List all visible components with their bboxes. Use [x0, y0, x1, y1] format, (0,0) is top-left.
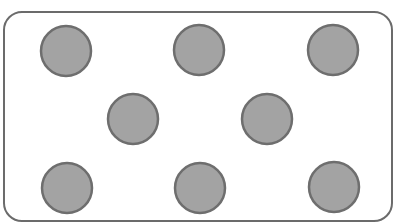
dot-4	[108, 94, 158, 144]
dot-8	[309, 162, 359, 212]
dot-6	[42, 163, 92, 213]
dot-5	[242, 94, 292, 144]
dot-2	[174, 25, 224, 75]
dot-3	[308, 25, 358, 75]
dot-1	[41, 26, 91, 76]
dot-pattern-diagram	[0, 0, 397, 223]
dot-7	[175, 163, 225, 213]
